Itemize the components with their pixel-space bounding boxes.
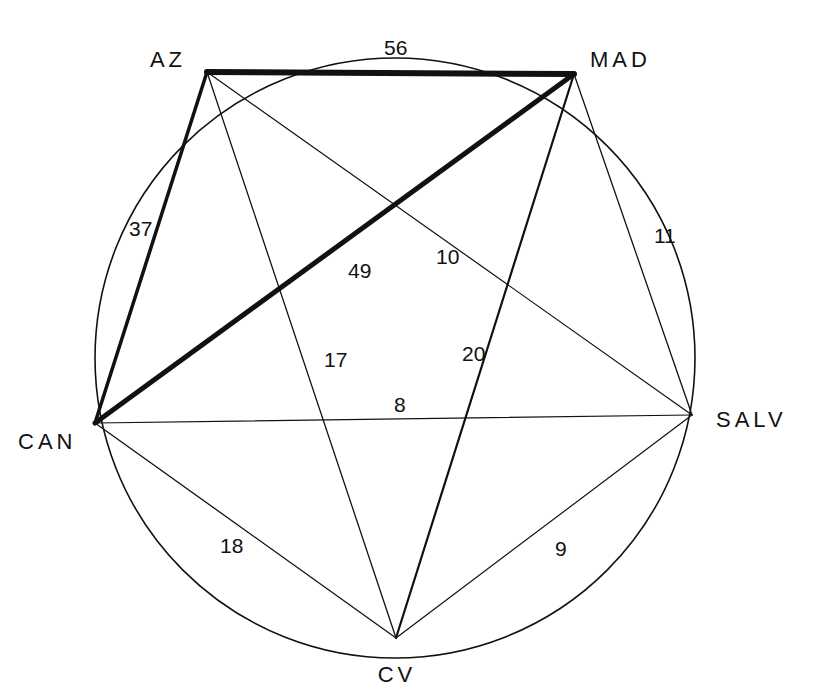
node-label-cv: CV [378, 662, 417, 687]
edge-az-salv [207, 72, 692, 415]
edge-weight-label: 18 [220, 534, 243, 557]
edge-weight-label: 9 [555, 537, 567, 560]
edge-labels: 564937201817111098 [129, 36, 676, 560]
edges [95, 72, 692, 638]
edge-az-mad [207, 72, 574, 74]
edge-can-cv [95, 423, 396, 638]
node-labels: AZMADCANSALVCV [18, 47, 787, 687]
node-label-salv: SALV [716, 407, 787, 432]
edge-salv-cv [396, 415, 692, 638]
edge-weight-label: 49 [348, 259, 371, 282]
edge-az-can [95, 72, 207, 423]
edge-weight-label: 8 [394, 393, 406, 416]
node-label-can: CAN [18, 429, 76, 454]
graph-diagram: 564937201817111098 AZMADCANSALVCV [0, 0, 817, 700]
edge-weight-label: 11 [654, 224, 676, 247]
node-label-az: AZ [150, 47, 186, 72]
node-label-mad: MAD [590, 47, 651, 72]
edge-can-salv [95, 415, 692, 423]
edge-weight-label: 37 [129, 217, 152, 240]
edge-weight-label: 17 [324, 348, 347, 371]
edge-weight-label: 10 [436, 245, 459, 268]
edge-weight-label: 20 [462, 342, 485, 365]
edge-weight-label: 56 [384, 36, 407, 59]
